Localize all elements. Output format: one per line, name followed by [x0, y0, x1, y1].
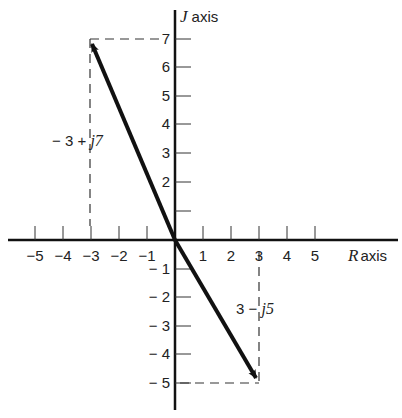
vector-label-3-minus-j5: 3 − j5: [236, 300, 274, 318]
tick-label: 6: [162, 58, 170, 75]
tick-label: 4: [283, 247, 291, 264]
tick-label: 2: [227, 247, 235, 264]
j-axis-ticks: [175, 39, 191, 383]
j-axis-tick-labels: 7 6 5 4 3 2 − 1 − 2 − 3 − 4 − 5: [149, 30, 170, 391]
r-axis-label: Raxis: [347, 246, 387, 265]
tick-label: − 1: [149, 260, 170, 277]
tick-label: − 3: [149, 317, 170, 334]
tick-label: 1: [199, 247, 207, 264]
tick-label: − 5: [149, 374, 170, 391]
r-axis-tick-labels: −5 −4 −3 −2 −1 1 2 3 4 5: [26, 247, 319, 264]
tick-label: −2: [110, 247, 127, 264]
tick-label: 5: [311, 247, 319, 264]
vector-label-neg3-plus-j7: − 3 + j7: [52, 132, 104, 150]
tick-label: −4: [54, 247, 71, 264]
j-axis-label: Jaxis: [180, 7, 218, 26]
tick-label: −5: [26, 247, 43, 264]
tick-label: 3: [162, 144, 170, 161]
tick-label: 3: [255, 247, 263, 264]
complex-plane-diagram: −5 −4 −3 −2 −1 1 2 3 4 5 7 6 5 4 3 2 − 1…: [0, 0, 402, 418]
tick-label: −3: [82, 247, 99, 264]
tick-label: 5: [162, 87, 170, 104]
tick-label: − 4: [149, 345, 170, 362]
tick-label: 4: [162, 115, 170, 132]
tick-label: − 2: [149, 288, 170, 305]
tick-label: 7: [162, 30, 170, 47]
tick-label: 2: [162, 173, 170, 190]
